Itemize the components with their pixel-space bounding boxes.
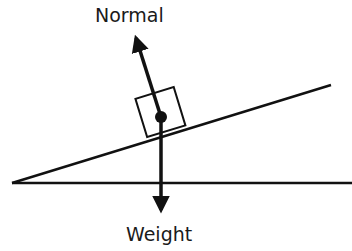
incline-diagram [0,0,352,251]
center-of-mass-dot [155,111,167,123]
incline-surface [12,85,331,183]
normal-force-arrow [136,38,161,117]
weight-label: Weight [126,223,192,245]
normal-label: Normal [95,4,164,26]
